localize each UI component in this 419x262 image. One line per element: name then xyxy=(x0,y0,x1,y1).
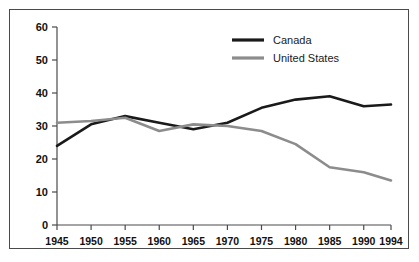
y-axis-tick-label: 0 xyxy=(42,219,48,231)
x-axis-tick-label: 1994 xyxy=(379,235,403,247)
y-axis-tick-label: 20 xyxy=(36,153,48,165)
x-axis-tick-label: 1950 xyxy=(79,235,103,247)
line-chart: 0102030405060 19451950195519601965197019… xyxy=(10,10,408,248)
x-axis-tick-label: 1975 xyxy=(250,235,274,247)
x-axis-tick-label: 1990 xyxy=(352,235,376,247)
y-axis-ticks: 0102030405060 xyxy=(36,21,57,231)
x-axis-tick-label: 1945 xyxy=(45,235,69,247)
series-line-united-states xyxy=(57,118,391,181)
legend-label-united-states: United States xyxy=(273,52,340,64)
legend-label-canada: Canada xyxy=(273,34,312,46)
x-axis-tick-label: 1960 xyxy=(148,235,172,247)
y-axis-tick-label: 60 xyxy=(36,21,48,33)
x-axis-tick-label: 1955 xyxy=(113,235,137,247)
chart-frame: 0102030405060 19451950195519601965197019… xyxy=(9,9,409,249)
x-axis-tick-label: 1965 xyxy=(182,235,206,247)
chart-legend: CanadaUnited States xyxy=(232,34,340,64)
x-axis-tick-label: 1980 xyxy=(284,235,308,247)
chart-series-layer xyxy=(57,96,391,180)
x-axis-ticks: 1945195019551960196519701975198019851990… xyxy=(45,225,403,247)
y-axis-tick-label: 50 xyxy=(36,54,48,66)
x-axis-tick-label: 1970 xyxy=(216,235,240,247)
y-axis-tick-label: 30 xyxy=(36,120,48,132)
y-axis-tick-label: 40 xyxy=(36,87,48,99)
series-line-canada xyxy=(57,96,391,146)
y-axis-tick-label: 10 xyxy=(36,186,48,198)
x-axis-tick-label: 1985 xyxy=(318,235,342,247)
figure-container: 0102030405060 19451950195519601965197019… xyxy=(0,0,419,262)
